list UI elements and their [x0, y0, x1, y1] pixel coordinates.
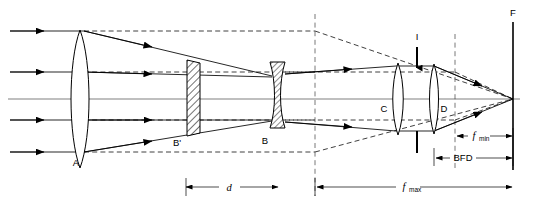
focal-plane-label: F [510, 7, 516, 18]
dimension-d: d [186, 178, 278, 196]
rays-B-to-C [285, 66, 396, 131]
dimension-f-max: f max [315, 178, 512, 196]
ray-diagram-svg: A B' B C D I [0, 0, 541, 209]
dimension-f-max-subscript: max [409, 186, 422, 193]
lens-b-label: B [262, 135, 268, 146]
lens-a: A [71, 30, 89, 168]
dimension-d-label: d [226, 182, 232, 193]
converging-rays-A-to-B [84, 31, 272, 152]
stop-b-prime-label: B' [173, 137, 181, 148]
dimension-f-max-label: f [403, 181, 408, 192]
dimension-f-min-subscript: min [479, 135, 490, 142]
iris-aperture: I [416, 31, 419, 153]
dimension-f-min-label: f [473, 130, 478, 141]
lens-d-label: D [441, 103, 448, 114]
dimension-f-min: f min [457, 130, 512, 142]
rays-D-to-focus [434, 66, 513, 131]
dashed-construction-rays [84, 31, 513, 152]
lens-c-label: C [381, 103, 388, 114]
lens-a-label: A [73, 157, 80, 168]
dimension-bfd-label: BFD [454, 152, 473, 163]
iris-label: I [416, 31, 419, 42]
optical-diagram: A B' B C D I [0, 0, 541, 209]
